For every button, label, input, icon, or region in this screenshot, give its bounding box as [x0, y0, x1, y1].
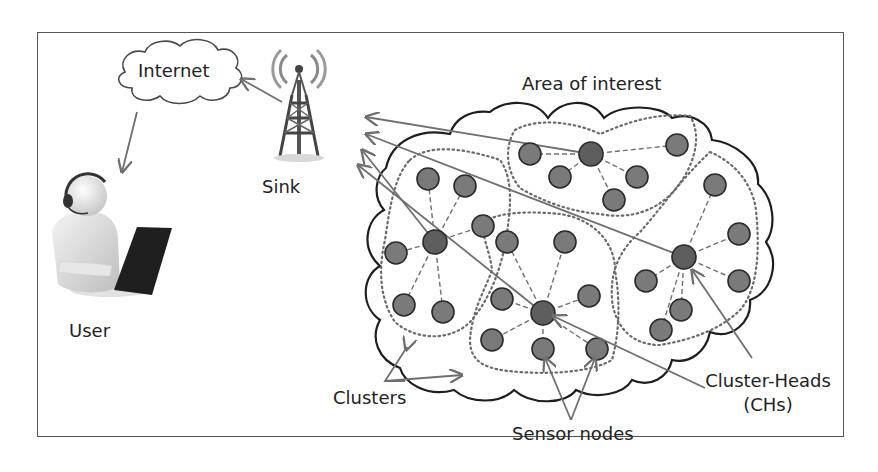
sensor-node [650, 319, 672, 341]
sink-tower-icon [273, 50, 326, 162]
sensor-node [728, 223, 750, 245]
sensor-node [385, 242, 407, 264]
sensor-node [635, 270, 657, 292]
sensor-node [417, 168, 439, 190]
sensor-node [393, 294, 415, 316]
sink-label: Sink [262, 178, 300, 196]
sensor-node [578, 285, 600, 307]
cluster-head-node [579, 142, 603, 166]
sensor-node [626, 166, 648, 188]
sensor-node [549, 166, 571, 188]
sensor-node [519, 143, 541, 165]
cluster-head-node [672, 245, 696, 269]
sensor-node [603, 189, 625, 211]
sensor-nodes-label: Sensor nodes [512, 425, 634, 443]
sensor-node [554, 231, 576, 253]
sensor-node [728, 270, 750, 292]
cluster-head-node [423, 230, 447, 254]
sensor-node [432, 301, 454, 323]
sensor-node [704, 174, 726, 196]
sensor-node [481, 329, 503, 351]
sensor-node [491, 288, 513, 310]
sensor-node [532, 338, 554, 360]
clusters-label: Clusters [333, 389, 406, 407]
arrow-internet-to-user [122, 112, 137, 172]
cluster-head-node [531, 301, 555, 325]
sensor-node [496, 231, 518, 253]
sensor-node [666, 134, 688, 156]
sensor-node [472, 215, 494, 237]
sensor-node [454, 175, 476, 197]
sensor-node [670, 299, 692, 321]
cluster-heads-label-line2: (CHs) [700, 396, 836, 414]
internet-label: Internet [138, 62, 209, 80]
cluster-heads-label-line1: Cluster-Heads [700, 372, 836, 390]
user-icon [52, 174, 172, 297]
cluster-heads-label: Cluster-Heads (CHs) [700, 372, 836, 414]
user-label: User [69, 322, 110, 340]
area-of-interest-label: Area of interest [522, 75, 661, 93]
